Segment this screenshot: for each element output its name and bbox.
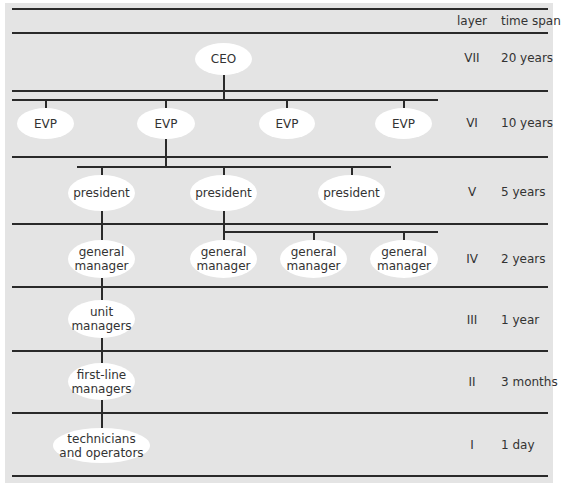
- node-general-manager: general manager: [370, 240, 438, 278]
- evp-bar: [12, 99, 438, 101]
- node-first-line-managers: first-line managers: [68, 363, 135, 400]
- timespan-value: 20 years: [501, 51, 553, 65]
- layer-value: III: [452, 313, 492, 327]
- node-unit-managers: unit managers: [68, 300, 135, 338]
- timespan-value: 3 months: [501, 375, 558, 389]
- timespan-value: 10 years: [501, 116, 553, 130]
- president1-drop: [101, 167, 103, 175]
- row-divider-vii: [12, 90, 548, 92]
- layer-value: I: [452, 438, 492, 452]
- node-general-manager: general manager: [280, 240, 347, 278]
- president2-connector: [223, 211, 225, 240]
- layer-value: IV: [452, 252, 492, 266]
- layer-value: V: [452, 185, 492, 199]
- timespan-value: 1 year: [501, 313, 539, 327]
- node-president: president: [190, 175, 257, 211]
- evp2-connector: [165, 138, 167, 167]
- ceo-connector: [223, 75, 225, 100]
- timespan-value: 1 day: [501, 438, 535, 452]
- president3-drop: [351, 167, 353, 175]
- row-divider-iv: [12, 286, 548, 288]
- node-evp: EVP: [375, 108, 432, 139]
- first-line-connector: [101, 400, 103, 428]
- timespan-value: 5 years: [501, 185, 545, 199]
- layer-header: layer: [452, 14, 492, 28]
- row-divider-bottom: [12, 475, 548, 477]
- node-general-manager: general manager: [68, 240, 135, 278]
- row-divider-header: [12, 32, 548, 34]
- evp1-drop: [45, 100, 47, 108]
- node-president: president: [318, 175, 385, 211]
- gm1-connector: [101, 278, 103, 300]
- unit-managers-connector: [101, 338, 103, 363]
- row-divider-ii: [12, 412, 548, 414]
- president-bar: [77, 166, 391, 168]
- president1-connector: [101, 211, 103, 240]
- gm-bar: [223, 231, 438, 233]
- node-evp: EVP: [17, 108, 74, 139]
- evp3-drop: [286, 100, 288, 108]
- evp2-drop: [165, 100, 167, 108]
- row-divider-vi: [12, 156, 548, 158]
- timespan-value: 2 years: [501, 252, 545, 266]
- node-president: president: [68, 175, 135, 211]
- row-divider-iii: [12, 350, 548, 352]
- evp4-drop: [403, 100, 405, 108]
- row-divider-top: [12, 8, 548, 10]
- layer-value: VII: [452, 51, 492, 65]
- layer-value: II: [452, 375, 492, 389]
- layer-value: VI: [452, 116, 492, 130]
- node-ceo: CEO: [195, 43, 252, 75]
- gm4-drop: [403, 232, 405, 240]
- node-evp: EVP: [137, 108, 195, 139]
- president2-drop: [223, 167, 225, 175]
- row-divider-v: [12, 223, 548, 225]
- timespan-header: time span: [501, 14, 561, 28]
- node-general-manager: general manager: [190, 240, 257, 278]
- gm3-drop: [313, 232, 315, 240]
- node-technicians-operators: technicians and operators: [53, 428, 150, 463]
- node-evp: EVP: [259, 108, 315, 139]
